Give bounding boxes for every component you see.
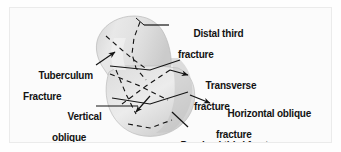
label-vertical-oblique-fracture: Vertical oblique fracture xyxy=(52,101,101,143)
label-distal-line2: fracture xyxy=(178,50,243,61)
label-proximal-line1: Proximal third fracture xyxy=(180,140,283,144)
label-distal-line1: Distal third xyxy=(193,28,243,39)
label-horizontal-line1: Horizontal oblique xyxy=(227,108,311,119)
label-vertical-line2: oblique xyxy=(52,133,101,144)
label-vertical-line1: Vertical xyxy=(67,111,101,122)
figure-panel: Distal third fracture Tuberculum Fractur… xyxy=(9,7,332,143)
label-transverse-line1: Transverse xyxy=(205,80,256,91)
figure-root: Distal third fracture Tuberculum Fractur… xyxy=(0,0,341,152)
label-proximal-third-fracture: Proximal third fracture xyxy=(165,130,283,143)
label-tuberculum-line1: Tuberculum xyxy=(38,70,93,81)
